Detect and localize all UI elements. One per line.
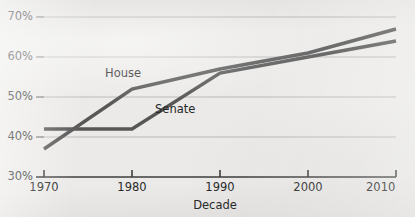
x-axis [44,170,396,177]
y-tick-label-70: 70% [0,11,33,23]
x-tick-label-2010: 2010 [366,182,415,194]
y-tick-label-40: 40% [0,131,33,143]
series-line-senate [44,41,396,129]
x-tick-label-1980: 1980 [102,182,162,194]
series-label-house: House [105,68,141,80]
y-tick-label-30: 30% [0,171,33,183]
gridlines [44,17,396,137]
y-tick-label-50: 50% [0,91,33,103]
series-lines [44,29,396,149]
series-label-senate: Senate [155,104,195,116]
x-tick-label-2000: 2000 [278,182,338,194]
x-axis-title: Decade [165,200,265,212]
series-line-house [44,29,396,149]
y-axis-ticks [36,17,44,177]
x-tick-label-1990: 1990 [190,182,250,194]
x-tick-label-1970: 1970 [14,182,74,194]
line-chart: 70% 60% 50% 40% 30% 1970 1980 1990 2000 … [0,0,415,217]
y-tick-label-60: 60% [0,51,33,63]
